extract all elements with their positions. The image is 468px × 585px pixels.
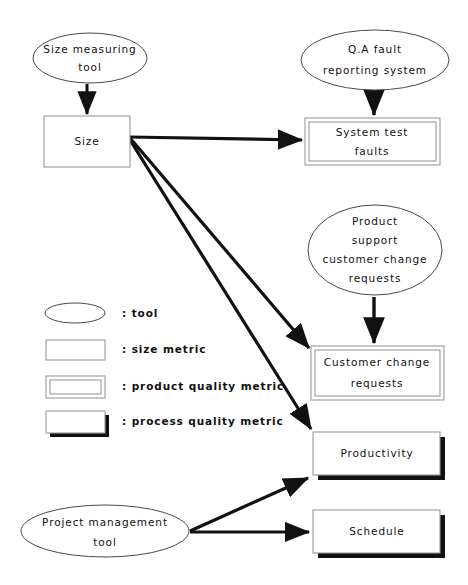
product-support-label-line-3: customer change xyxy=(323,253,428,265)
system-test-faults-label-line-1: System test xyxy=(336,126,409,138)
edge-size-to-system-test-faults xyxy=(129,137,302,140)
schedule-label: Schedule xyxy=(349,525,404,537)
size-measuring-tool-label-line-1: Size measuring xyxy=(43,43,136,55)
legend-double-rectangle-icon-outer xyxy=(46,376,105,398)
product-support-label-line-1: Product xyxy=(352,215,398,227)
product-support-label-line-4: requests xyxy=(349,272,402,284)
legend-label-product-quality-metric: : product quality metric xyxy=(122,380,284,392)
qa-fault-reporting-system-label-line-1: Q.A fault xyxy=(348,43,402,55)
node-schedule[interactable]: Schedule xyxy=(313,510,445,558)
node-system-test-faults[interactable]: System test faults xyxy=(305,118,440,165)
qa-fault-reporting-system-label-line-2: reporting system xyxy=(323,64,427,76)
legend-rectangle-icon xyxy=(46,340,105,360)
product-support-label-line-2: support xyxy=(352,234,399,246)
legend-shadow-rectangle-icon xyxy=(46,411,105,433)
edge-project-management-tool-to-productivity xyxy=(190,478,308,531)
legend-item-process-quality-metric: : process quality metric xyxy=(46,411,284,437)
legend: : tool : size metric : product quality m… xyxy=(45,303,284,437)
project-management-tool-ellipse xyxy=(21,505,189,557)
size-measuring-tool-ellipse xyxy=(33,33,147,83)
size-label: Size xyxy=(74,135,99,147)
size-measuring-tool-label-line-2: tool xyxy=(78,61,101,73)
customer-change-requests-label-line-2: requests xyxy=(351,377,404,389)
node-size[interactable]: Size xyxy=(44,116,130,167)
legend-label-size-metric: : size metric xyxy=(122,343,206,355)
customer-change-requests-outer-box xyxy=(311,346,444,400)
node-product-support-customer-change-requests[interactable]: Product support customer change requests xyxy=(308,205,442,295)
legend-item-size-metric: : size metric xyxy=(46,340,206,360)
legend-label-process-quality-metric: : process quality metric xyxy=(122,415,284,427)
diagram-canvas: Size measuring tool Size Q.A fault repor… xyxy=(0,0,468,585)
legend-label-tool: : tool xyxy=(122,307,158,319)
system-test-faults-label-line-2: faults xyxy=(355,145,390,157)
node-customer-change-requests[interactable]: Customer change requests xyxy=(311,346,444,400)
legend-item-product-quality-metric: : product quality metric xyxy=(46,376,284,398)
legend-item-tool: : tool xyxy=(45,303,158,323)
node-project-management-tool[interactable]: Project management tool xyxy=(21,505,189,557)
project-management-tool-label-line-1: Project management xyxy=(42,516,168,528)
legend-ellipse-icon xyxy=(45,303,105,323)
diagram-svg: Size measuring tool Size Q.A fault repor… xyxy=(0,0,468,585)
productivity-label: Productivity xyxy=(340,447,413,459)
node-qa-fault-reporting-system[interactable]: Q.A fault reporting system xyxy=(301,30,449,90)
qa-fault-reporting-system-ellipse xyxy=(301,30,449,90)
customer-change-requests-label-line-1: Customer change xyxy=(324,356,430,368)
node-productivity[interactable]: Productivity xyxy=(313,432,445,480)
node-size-measuring-tool[interactable]: Size measuring tool xyxy=(33,33,147,83)
project-management-tool-label-line-2: tool xyxy=(93,536,116,548)
